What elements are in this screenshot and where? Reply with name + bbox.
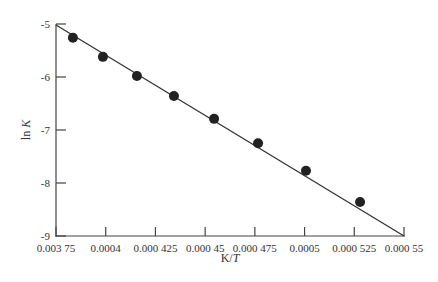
y-tick-label: -9 — [41, 230, 51, 242]
data-point — [301, 166, 311, 176]
data-point — [209, 114, 219, 124]
x-tick-label: 0.000 425 — [133, 242, 178, 254]
data-point — [98, 52, 108, 62]
x-tick-label: 0.000 55 — [385, 242, 424, 254]
y-axis-title: ln K — [19, 119, 33, 140]
fit-line-path — [56, 25, 404, 236]
y-ticks: -5-6-7-8-9 — [41, 18, 66, 242]
x-ticks: 0.003 750.00040.000 4250.000 450.000 475… — [37, 227, 424, 254]
x-tick-label: 0.0005 — [289, 242, 320, 254]
x-axis-title: K/T — [221, 251, 241, 265]
data-point — [169, 91, 179, 101]
y-tick-label: -5 — [41, 18, 51, 30]
fit-line — [56, 25, 404, 236]
data-point — [355, 197, 365, 207]
y-tick-label: -6 — [41, 71, 51, 83]
x-tick-label: 0.000 45 — [186, 242, 225, 254]
x-tick-label: 0.000 525 — [332, 242, 377, 254]
x-tick-label: 0.0004 — [91, 242, 122, 254]
data-point — [132, 71, 142, 81]
x-tick-label: 0.000 475 — [233, 242, 278, 254]
y-tick-label: -8 — [41, 177, 51, 189]
data-point — [253, 138, 263, 148]
x-tick-label: 0.003 75 — [37, 242, 76, 254]
chart: -5-6-7-8-9 0.003 750.00040.000 4250.000 … — [0, 0, 438, 282]
y-tick-label: -7 — [41, 124, 51, 136]
data-point — [68, 33, 78, 43]
